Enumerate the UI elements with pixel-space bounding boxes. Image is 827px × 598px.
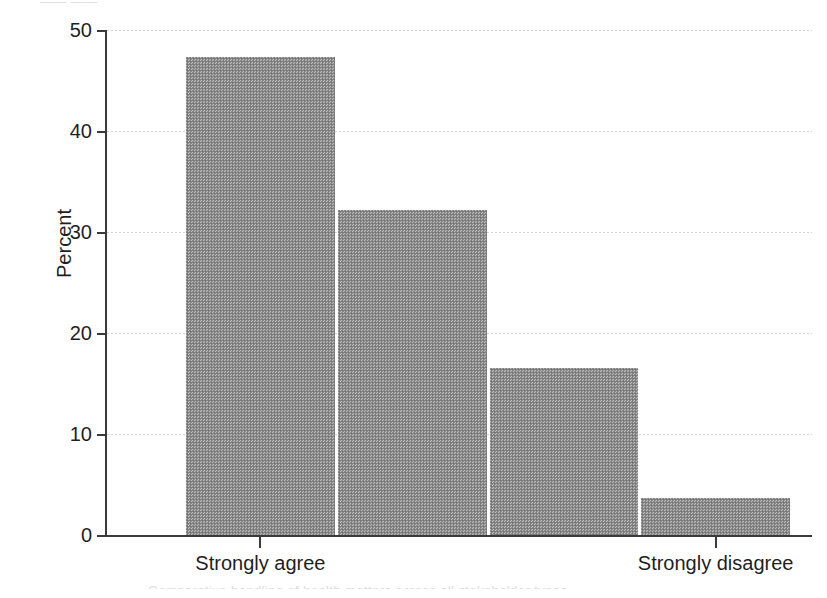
y-tick-mark-40 <box>97 131 107 133</box>
y-tick-label-50: 50 <box>32 19 92 42</box>
x-tick-label-0: Strongly agree <box>195 552 325 575</box>
y-tick-label-20: 20 <box>32 322 92 345</box>
scan-artifact-bottom: Comparative handling of health matters a… <box>148 583 808 598</box>
x-axis-line <box>105 535 812 537</box>
y-tick-mark-0 <box>97 535 107 537</box>
plot-area <box>107 30 812 535</box>
scan-artifact-top: —— —— <box>40 0 170 8</box>
y-tick-mark-20 <box>97 333 107 335</box>
y-tick-mark-50 <box>97 30 107 32</box>
bar-chart-figure: —— —— 01020304050 Percent Strongly agree… <box>0 0 827 598</box>
y-tick-mark-30 <box>97 232 107 234</box>
y-axis-title: Percent <box>53 174 76 314</box>
y-tick-label-40: 40 <box>32 120 92 143</box>
x-tick-mark-0 <box>259 537 261 548</box>
bar-3 <box>641 498 790 535</box>
y-tick-label-0: 0 <box>32 524 92 547</box>
y-tick-label-10: 10 <box>32 423 92 446</box>
x-tick-mark-1 <box>715 537 717 548</box>
bar-series <box>107 30 812 535</box>
bar-1 <box>338 210 487 535</box>
y-tick-mark-10 <box>97 434 107 436</box>
bar-2 <box>490 368 639 535</box>
bar-0 <box>186 57 335 535</box>
x-tick-label-1: Strongly disagree <box>638 552 794 575</box>
